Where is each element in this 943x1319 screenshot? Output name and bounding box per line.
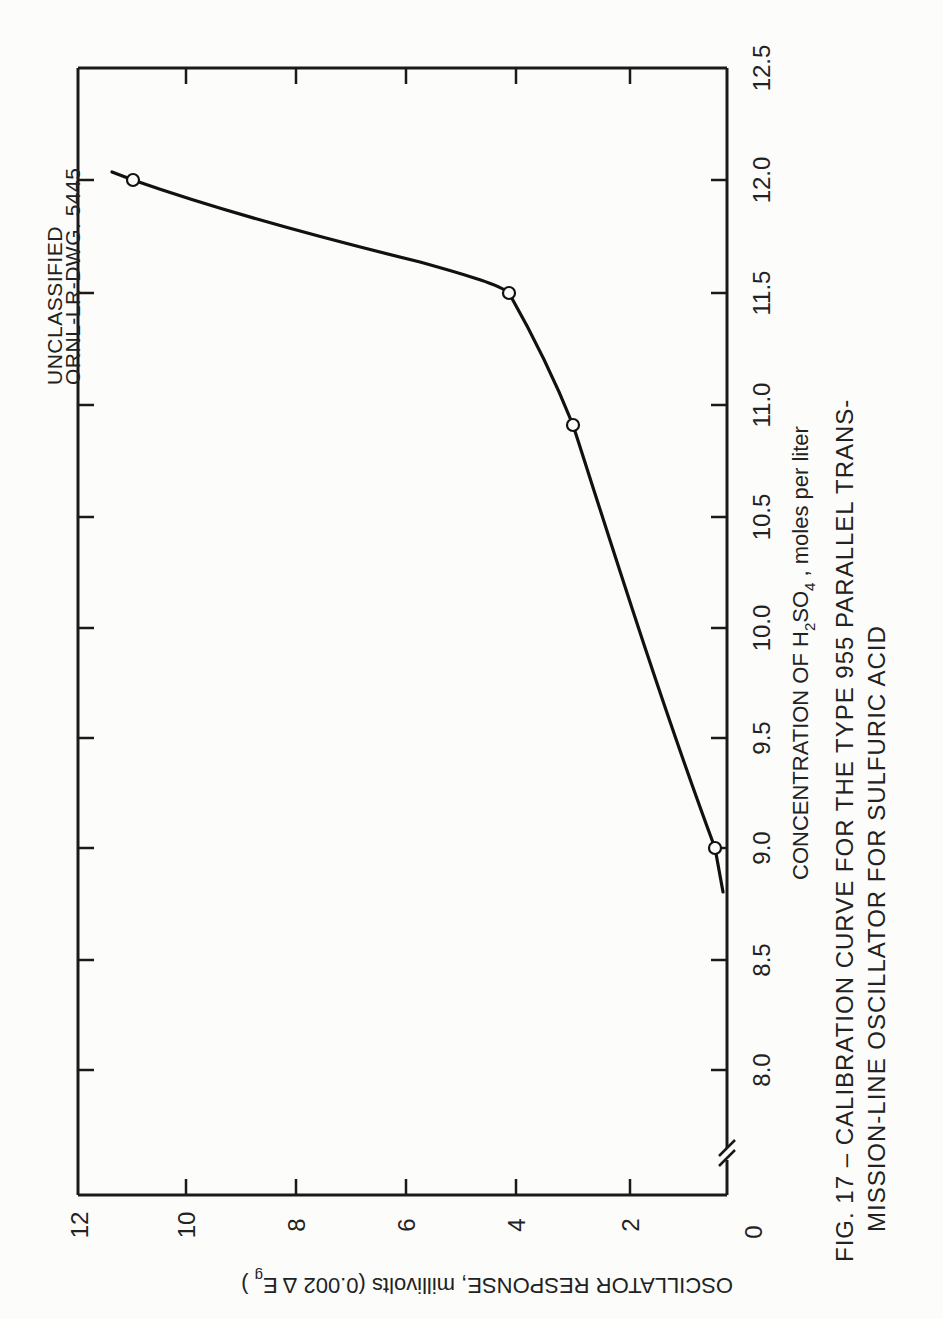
y-tick-label: 12 [66,1212,93,1239]
y-tick-label: 10 [173,1212,200,1239]
x-tick-label: 10.5 [748,494,775,541]
data-points [127,174,721,854]
x-tick-label: 11.5 [748,271,775,316]
data-point-marker [127,174,139,186]
response-tick-labels: 12 10 8 6 4 2 0 [66,1212,767,1239]
figure-caption-line2: MISSION-LINE OSCILLATOR FOR SULFURIC ACI… [863,625,890,1232]
data-point-marker [503,287,515,299]
x-tick-label: 9.0 [748,831,775,864]
x-tick-label: 8.5 [748,943,775,976]
figure-caption-line1: FIG. 17 – CALIBRATION CURVE FOR THE TYPE… [831,399,858,1262]
y-tick-label: 2 [617,1218,644,1231]
calibration-chart: 8.0 8.5 9.0 9.5 10.0 10.5 11.0 11.5 12.0… [0,0,943,1319]
calibration-curve [112,172,723,892]
drawing-number: ORNL-LR-DWG. 5445 [61,168,84,385]
response-ticks [186,1179,630,1195]
x-tick-label: 8.0 [748,1053,775,1086]
concentration-ticks [711,180,727,1070]
y-tick-label: 6 [393,1218,420,1231]
concentration-tick-labels: 8.0 8.5 9.0 9.5 10.0 10.5 11.0 11.5 12.0… [748,45,775,1087]
plot-frame [78,68,735,1195]
x-tick-label: 12.5 [748,45,775,92]
data-point-marker [709,842,721,854]
y-axis-title: OSCILLATOR RESPONSE, millivolts (0.002 Δ… [241,1268,733,1298]
top-ticks [186,68,630,84]
x-tick-label: 9.5 [748,721,775,754]
y-tick-label: 8 [283,1218,310,1231]
x-axis-title: CONCENTRATION OF H2SO4 , moles per liter [788,426,818,880]
y-tick-label: 0 [740,1225,767,1238]
x-tick-label: 10.0 [748,605,775,652]
x-tick-label: 11.0 [748,383,775,428]
data-point-marker [567,419,579,431]
x-tick-label: 12.0 [748,157,775,204]
y-tick-label: 4 [503,1218,530,1231]
